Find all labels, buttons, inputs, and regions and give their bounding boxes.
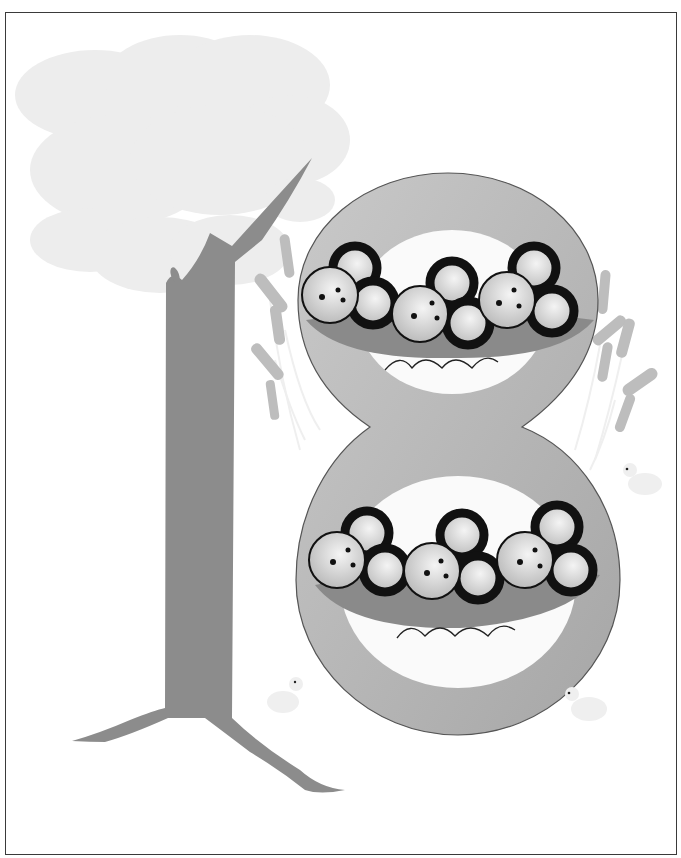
duck <box>267 677 303 713</box>
number-eighteen-illustration <box>0 0 681 858</box>
tree-foliage <box>15 35 350 293</box>
duck <box>565 687 607 721</box>
duck <box>623 463 662 495</box>
